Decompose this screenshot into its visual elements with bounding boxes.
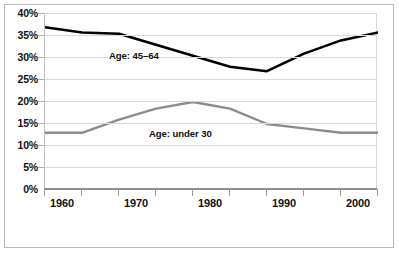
x-tick-2005 [377,189,378,196]
x-tick-1960 [44,189,45,196]
gridline-20 [45,101,376,102]
x-axis-label-1990: 1990 [272,197,296,209]
x-tick-1980 [192,189,193,196]
y-axis-label-10: 10% [2,139,38,151]
x-axis-label-1970: 1970 [124,197,148,209]
gridline-35 [45,35,376,36]
y-axis-label-20: 20% [2,95,38,107]
y-axis-label-0: 0% [2,183,38,195]
gridline-30 [45,57,376,58]
y-axis-label-15: 15% [2,117,38,129]
x-tick-1995 [303,189,304,196]
x-axis-label-2000: 2000 [346,197,370,209]
x-tick-1965 [81,189,82,196]
y-axis-label-25: 25% [2,73,38,85]
x-axis-line [44,188,377,190]
series-annotation-age-under-30: Age: under 30 [148,128,213,139]
x-tick-1985 [229,189,230,196]
y-axis-label-5: 5% [2,161,38,173]
y-axis-labels: 40% 35% 30% 25% 20% 15% 10% 5% 0% [0,0,38,256]
series-lines-svg [45,14,378,190]
gridline-10 [45,145,376,146]
x-tick-1975 [155,189,156,196]
gridline-25 [45,79,376,80]
plot-area [44,13,377,189]
series-annotation-age-45-64: Age: 45–64 [108,50,160,61]
chart-figure: 40% 35% 30% 25% 20% 15% 10% 5% 0% [0,0,399,256]
y-axis-label-35: 35% [2,29,38,41]
x-tick-1990 [266,189,267,196]
x-tick-2000 [340,189,341,196]
y-axis-label-40: 40% [2,7,38,19]
y-axis-label-30: 30% [2,51,38,63]
gridline-15 [45,123,376,124]
series-line-age-45-64 [45,27,378,71]
x-axis-label-1980: 1980 [198,197,222,209]
gridline-5 [45,167,376,168]
x-axis-label-1960: 1960 [50,197,74,209]
x-tick-1970 [118,189,119,196]
